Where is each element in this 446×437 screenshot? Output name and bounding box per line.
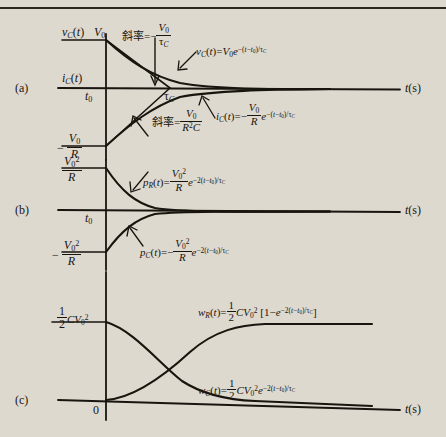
panel-a-slope-top-label: 斜率=−V0τC: [122, 22, 171, 48]
panel-a-slope-bottom-pointer-shaft: [134, 118, 148, 136]
panel-c-t-axis-label: t(s): [405, 403, 421, 415]
panel-b-t-axis-label: t(s): [405, 204, 421, 216]
panel-c-wc-formula: wC(t)=12CV02e−2(t−t0)/τC: [198, 378, 295, 401]
figure-vector-layer: [0, 0, 446, 437]
panel-a-vc-axis-label: vC(t): [62, 26, 84, 40]
panel-a-v0-value-label: V0: [94, 26, 105, 40]
panel-b-pc-formula: pC(t)=−V02Re−2(t−t0)/τC: [140, 238, 229, 263]
panel-b-neg-level-label: − V02R: [52, 239, 81, 267]
panel-c-wr-formula: wR(t)=12CV02 [1−e−2(t−t0)/τC]: [198, 300, 317, 323]
panel-b-label: (b): [15, 204, 29, 216]
panel-a-slope-bottom-label: 斜率=V0R2C: [152, 108, 202, 133]
panel-b-pos-level-label: V02R: [62, 155, 82, 183]
panel-a-origin-label: t0: [85, 90, 92, 104]
panel-a-ic-axis-label: iC(t): [62, 72, 82, 86]
panel-a-label: (a): [15, 82, 28, 94]
panel-c-origin-label: 0: [93, 404, 99, 416]
panel-c-pos-level-label: 12CV02: [57, 305, 89, 330]
panel-a-tau-label: τC: [164, 90, 174, 104]
panel-a-vc-pointer-shaft: [180, 52, 196, 68]
panel-a-t-axis-label: t(s): [405, 82, 421, 94]
panel-a-vc-formula: vC(t)=V0e−(t−t0)/τC: [196, 46, 266, 59]
panel-a-ic-pointer-shaft: [203, 98, 215, 118]
rc-discharge-waveform-figure: (a) vC(t) V0 iC(t) t0 τC t(s) − V0R 斜率=−…: [0, 0, 446, 437]
panel-c-label: (c): [15, 394, 28, 406]
panel-a-ic-formula: iC(t)=−V0Re−(t−t0)/τC: [216, 102, 295, 127]
panel-b-pr-formula: pR(t)=V02Re−2(t−t0)/τC: [143, 168, 225, 193]
panel-b-origin-label: t0: [85, 212, 92, 226]
